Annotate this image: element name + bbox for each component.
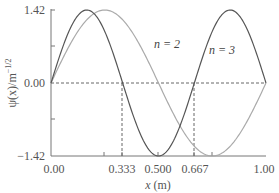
label-n2: n = 2: [154, 37, 180, 51]
x-unit: (m): [151, 178, 171, 192]
y-ticks: [51, 10, 55, 119]
y-label-exp: −1/2: [4, 59, 13, 74]
x-tick-0: 0.00: [44, 162, 65, 176]
x-tick-0333: 0.333: [109, 162, 136, 176]
x-tick-0667: 0.667: [182, 162, 209, 176]
x-tick-0500: 0.500: [145, 162, 172, 176]
x-axis-title: x (m): [144, 178, 171, 192]
label-n3: n = 3: [209, 43, 235, 57]
y-tick-top: 1.42: [24, 3, 45, 17]
y-tick-mid: 0.00: [24, 76, 45, 90]
y-axis-title: ψ(x)/m−1/2: [4, 59, 19, 108]
y-tick-bot: −1.42: [17, 149, 45, 163]
wavefunction-chart: 1.42 0.00 −1.42 0.00 0.333 0.500 0.667 1…: [0, 0, 279, 193]
y-label-main: ψ(x)/m: [5, 73, 19, 108]
x-tick-1: 1.00: [254, 162, 275, 176]
